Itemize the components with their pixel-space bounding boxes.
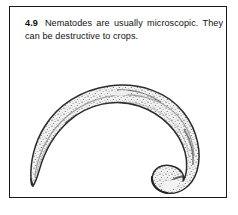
- figure-frame-border: 4.9Nematodes are usually microscopic. Th…: [9, 6, 227, 198]
- figure-number: 4.9: [25, 18, 38, 28]
- figure-panel: 4.9Nematodes are usually microscopic. Th…: [0, 0, 238, 215]
- figure-caption: 4.9Nematodes are usually microscopic. Th…: [25, 17, 223, 42]
- figure-caption-text: Nematodes are usually microscopic. They …: [25, 18, 223, 41]
- nematode-body-texture: [21, 59, 235, 201]
- nematode-illustration: [21, 59, 235, 201]
- nematode-drawing: [21, 59, 235, 201]
